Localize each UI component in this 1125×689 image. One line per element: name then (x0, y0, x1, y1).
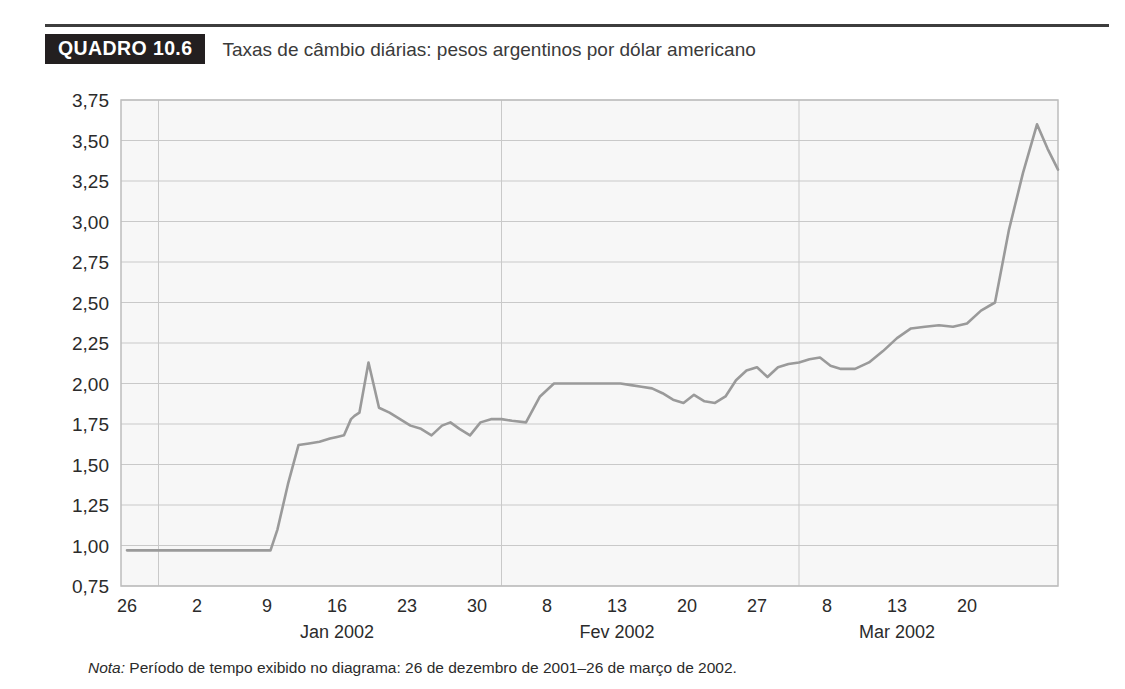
x-axis-tick-label: 27 (747, 596, 767, 616)
x-axis-tick-label: 13 (607, 596, 627, 616)
x-axis-month-label: Mar 2002 (859, 622, 935, 642)
x-axis-tick-label: 2 (192, 596, 202, 616)
x-axis-tick-label: 8 (822, 596, 832, 616)
y-axis-tick-label: 3,50 (72, 131, 109, 152)
note-text: Período de tempo exibido no diagrama: 26… (125, 659, 737, 676)
y-axis-tick-label: 3,75 (72, 90, 109, 111)
x-axis-tick-label: 16 (327, 596, 347, 616)
y-axis-tick-label: 2,75 (72, 252, 109, 273)
x-axis-month-label: Jan 2002 (300, 622, 374, 642)
x-axis-tick-label: 20 (677, 596, 697, 616)
note-label: Nota: (88, 659, 125, 676)
figure-note: Nota: Período de tempo exibido no diagra… (88, 659, 737, 677)
y-axis-tick-label: 2,25 (72, 333, 109, 354)
x-axis-tick-label: 9 (262, 596, 272, 616)
x-axis-month-label: Fev 2002 (579, 622, 654, 642)
y-axis-tick-label: 1,00 (72, 536, 109, 557)
line-chart: 3,753,503,253,002,752,502,252,001,751,50… (0, 0, 1125, 689)
figure-quadro-10-6: QUADRO 10.6 Taxas de câmbio diárias: pes… (0, 0, 1125, 689)
y-axis-tick-label: 3,00 (72, 212, 109, 233)
y-axis-tick-label: 1,75 (72, 414, 109, 435)
x-axis-tick-label: 26 (117, 596, 137, 616)
x-axis-tick-label: 8 (542, 596, 552, 616)
y-axis-tick-label: 2,00 (72, 374, 109, 395)
y-axis-tick-label: 3,25 (72, 171, 109, 192)
x-axis-tick-label: 30 (467, 596, 487, 616)
y-axis-tick-label: 2,50 (72, 293, 109, 314)
x-axis-tick-label: 13 (887, 596, 907, 616)
chart-area: 3,753,503,253,002,752,502,252,001,751,50… (0, 0, 1125, 689)
y-axis-tick-label: 0,75 (72, 576, 109, 597)
x-axis-tick-label: 23 (397, 596, 417, 616)
y-axis-tick-label: 1,50 (72, 455, 109, 476)
x-axis-tick-label: 20 (957, 596, 977, 616)
y-axis-tick-label: 1,25 (72, 495, 109, 516)
